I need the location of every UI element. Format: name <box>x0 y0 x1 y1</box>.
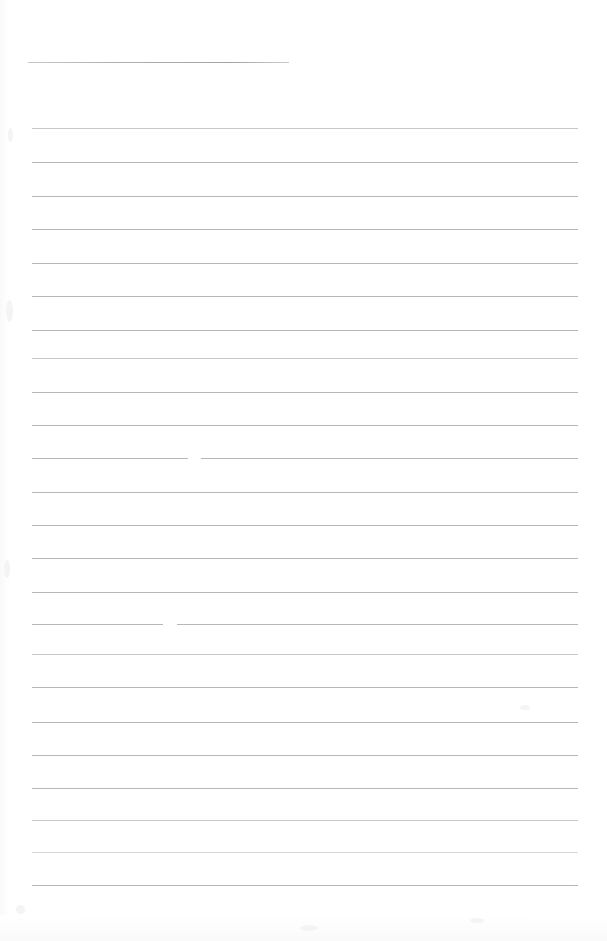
writing-area[interactable] <box>32 80 578 900</box>
scan-speck <box>4 560 10 578</box>
scanned-page <box>0 0 607 941</box>
scan-speck <box>300 925 318 931</box>
scan-edge-bottom <box>0 915 607 941</box>
scan-speck <box>6 300 13 322</box>
scan-speck <box>16 905 25 914</box>
header-rule <box>28 62 289 63</box>
scan-speck <box>470 918 484 923</box>
scan-edge-left <box>0 0 10 941</box>
scan-speck <box>8 128 13 142</box>
